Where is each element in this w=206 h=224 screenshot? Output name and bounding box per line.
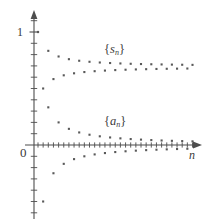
data-point-term xyxy=(52,172,54,174)
data-point-term xyxy=(47,106,49,108)
brace-close: } xyxy=(119,42,125,56)
data-point-partial-sum xyxy=(186,67,188,69)
data-point-term xyxy=(181,140,183,142)
data-point-partial-sum xyxy=(68,58,70,60)
data-point-term xyxy=(99,135,101,137)
data-point-partial-sum xyxy=(83,71,85,73)
data-point-partial-sum xyxy=(176,68,178,70)
data-point-term xyxy=(63,163,65,165)
data-point-partial-sum xyxy=(171,64,173,66)
data-point-term xyxy=(155,149,157,151)
data-point-partial-sum xyxy=(109,62,111,64)
origin-label-zero: 0 xyxy=(20,146,27,159)
data-point-term xyxy=(166,148,168,150)
data-point-term xyxy=(176,148,178,150)
data-point-term xyxy=(125,150,127,152)
brace-close: } xyxy=(120,114,126,128)
data-point-partial-sum xyxy=(119,62,121,64)
plot-canvas xyxy=(0,0,206,224)
data-point-partial-sum xyxy=(63,74,65,76)
data-point-term xyxy=(114,151,116,153)
data-point-term xyxy=(161,139,163,141)
data-point-term xyxy=(119,137,121,139)
data-point-term xyxy=(68,128,70,130)
data-point-partial-sum xyxy=(47,50,49,52)
data-point-term xyxy=(83,155,85,157)
data-point-partial-sum xyxy=(78,60,80,62)
data-point-term xyxy=(145,149,147,151)
data-point-partial-sum xyxy=(94,70,96,72)
data-point-term xyxy=(37,31,39,33)
data-point-partial-sum xyxy=(161,63,163,65)
data-point-term xyxy=(109,136,111,138)
data-point-term xyxy=(88,134,90,136)
data-point-partial-sum xyxy=(166,68,168,70)
data-point-term xyxy=(135,150,137,152)
data-point-term xyxy=(78,131,80,133)
data-point-partial-sum xyxy=(140,63,142,65)
alternating-series-figure: 1 0 n {sn} {an} xyxy=(0,0,206,224)
data-point-term xyxy=(42,200,44,202)
data-point-partial-sum xyxy=(52,78,54,80)
y-axis-tick-label-one: 1 xyxy=(17,26,23,38)
data-point-partial-sum xyxy=(104,70,106,72)
data-point-term xyxy=(171,140,173,142)
data-point-partial-sum xyxy=(58,55,60,57)
data-point-partial-sum xyxy=(191,64,193,66)
data-point-partial-sum xyxy=(135,68,137,70)
data-point-term xyxy=(73,158,75,160)
data-point-partial-sum xyxy=(99,61,101,63)
data-point-term xyxy=(58,121,60,123)
data-point-partial-sum xyxy=(125,69,127,71)
data-point-partial-sum xyxy=(145,68,147,70)
data-point-partial-sum xyxy=(114,69,116,71)
data-point-term xyxy=(140,139,142,141)
series-terms-label: {an} xyxy=(104,115,126,129)
data-point-term xyxy=(94,153,96,155)
data-point-term xyxy=(150,139,152,141)
data-point-partial-sum xyxy=(73,72,75,74)
data-point-partial-sum xyxy=(150,63,152,65)
data-point-term xyxy=(130,138,132,140)
data-point-partial-sum xyxy=(88,61,90,63)
data-point-partial-sum xyxy=(130,63,132,65)
data-point-term xyxy=(104,152,106,154)
x-axis-label-n: n xyxy=(189,149,195,161)
data-point-partial-sum xyxy=(181,64,183,66)
series-partial-sums-label: {sn} xyxy=(104,43,125,57)
data-point-partial-sum xyxy=(155,68,157,70)
data-point-term xyxy=(191,140,193,142)
data-point-partial-sum xyxy=(42,87,44,89)
